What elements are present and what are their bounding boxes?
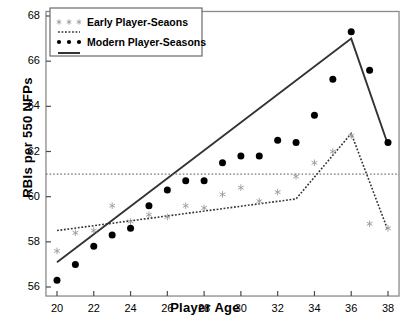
x-tick-label: 26 xyxy=(152,302,182,314)
y-tick-label: 60 xyxy=(12,190,40,202)
fit-line xyxy=(57,133,388,230)
data-point-modern xyxy=(293,139,300,146)
data-point-early xyxy=(256,198,262,205)
data-point-early xyxy=(220,191,226,198)
data-point-modern xyxy=(274,137,281,144)
data-point-modern xyxy=(219,159,226,166)
data-point-modern xyxy=(182,177,189,184)
x-tick-label: 22 xyxy=(79,302,109,314)
y-tick-label: 66 xyxy=(12,54,40,66)
x-tick-label: 34 xyxy=(299,302,329,314)
data-point-modern xyxy=(201,177,208,184)
y-tick-label: 68 xyxy=(12,9,40,21)
x-tick-label: 36 xyxy=(336,302,366,314)
data-point-modern xyxy=(311,112,318,119)
y-tick-label: 58 xyxy=(12,235,40,247)
data-point-modern xyxy=(237,153,244,160)
data-point-early xyxy=(312,159,318,166)
series-points-modern xyxy=(54,28,392,283)
fit-lines xyxy=(46,39,399,263)
x-tick-label: 30 xyxy=(226,302,256,314)
legend-dot-icon xyxy=(57,40,61,44)
data-point-modern xyxy=(366,67,373,74)
data-point-modern xyxy=(329,76,336,83)
data-point-modern xyxy=(164,186,171,193)
y-tick-label: 64 xyxy=(12,99,40,111)
data-point-early xyxy=(385,225,391,232)
data-point-modern xyxy=(256,153,263,160)
data-point-early xyxy=(128,218,134,225)
series-points-early xyxy=(54,132,391,254)
data-point-early xyxy=(201,205,207,212)
data-point-early xyxy=(54,248,60,255)
axis-ticks xyxy=(46,16,388,296)
data-point-modern xyxy=(385,139,392,146)
legend-dot-icon xyxy=(77,40,81,44)
data-point-early xyxy=(183,202,189,209)
data-point-modern xyxy=(72,261,79,268)
data-point-early xyxy=(367,220,373,227)
legend-box xyxy=(50,8,202,56)
data-point-early xyxy=(330,148,336,155)
x-tick-label: 32 xyxy=(263,302,293,314)
x-tick-label: 24 xyxy=(116,302,146,314)
data-point-early xyxy=(238,184,244,191)
fit-line xyxy=(57,39,388,263)
data-point-modern xyxy=(54,277,61,284)
y-tick-label: 56 xyxy=(12,280,40,292)
data-point-modern xyxy=(127,225,134,232)
data-point-early xyxy=(275,189,281,196)
x-tick-label: 38 xyxy=(373,302,403,314)
data-point-modern xyxy=(109,232,116,239)
y-tick-label: 62 xyxy=(12,145,40,157)
chart-figure: RBIs per 550 NFPs Player Age 56586062646… xyxy=(0,0,410,323)
x-tick-label: 28 xyxy=(189,302,219,314)
data-point-early xyxy=(146,211,152,218)
legend-dot-icon xyxy=(67,40,71,44)
data-point-early xyxy=(109,202,115,209)
data-point-early xyxy=(73,230,79,237)
data-point-modern xyxy=(90,243,97,250)
chart-canvas xyxy=(0,0,410,323)
data-point-modern xyxy=(348,28,355,35)
data-point-modern xyxy=(145,202,152,209)
x-tick-label: 20 xyxy=(42,302,72,314)
